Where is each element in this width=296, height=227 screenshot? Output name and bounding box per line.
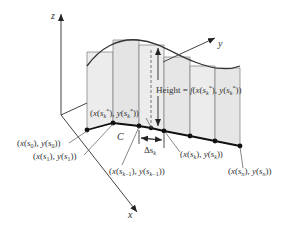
point-label-sk-1: (x(sk−1), y(sk−1)): [109, 166, 165, 177]
point-s5: [188, 134, 193, 139]
rect-5: [190, 66, 215, 141]
rect-1: [87, 52, 113, 130]
x-axis: [61, 115, 137, 212]
point-s6: [213, 139, 218, 144]
point-s1: [111, 121, 116, 126]
leader-sn: [240, 147, 243, 168]
rect-4: [164, 57, 190, 136]
z-axis-label: z: [50, 10, 55, 21]
delta-sk-label: Δsk: [144, 145, 156, 156]
leader-s0: [69, 131, 87, 143]
leader-sk-1: [122, 127, 139, 165]
line-integral-diagram: z y x Height = f(x(sk*), y(sk*)) (x(sk*)…: [0, 0, 296, 227]
rect-6: [215, 68, 240, 146]
leader-sk: [165, 132, 180, 152]
curve-label-c: C: [117, 131, 124, 142]
point-s0: [85, 128, 90, 133]
x-axis-label: x: [127, 209, 133, 220]
y-axis-label: y: [217, 38, 223, 49]
point-label-sk: (x(sk), y(sk)): [180, 149, 223, 160]
height-label: Height = f(x(sk*), y(sk*)): [156, 85, 241, 96]
y-axis-lower: [61, 103, 87, 115]
point-label-s0: (x(s0), y(s0)): [17, 138, 61, 149]
point-label-sn: (x(sn), y(sn)): [228, 166, 272, 177]
delta-sk-marker: Δsk: [139, 130, 164, 156]
point-label-s1: (x(s1), y(s1)): [33, 151, 77, 162]
